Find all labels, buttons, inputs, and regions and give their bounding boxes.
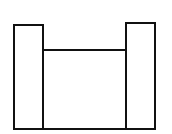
diagram-canvas [0,0,172,134]
right-tall-block [126,23,155,129]
middle-short-block [43,50,126,129]
block-diagram [0,0,172,134]
left-tall-block [14,25,43,129]
